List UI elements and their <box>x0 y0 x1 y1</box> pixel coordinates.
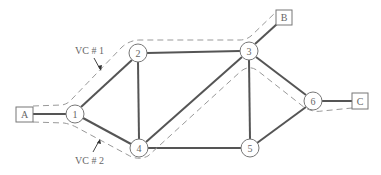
link-1-2 <box>81 60 132 107</box>
router-1-label: 1 <box>73 109 78 120</box>
router-5: 5 <box>241 139 259 157</box>
router-5-label: 5 <box>248 143 253 154</box>
vc1-annotation: VC # 1 <box>75 45 104 71</box>
link-2-3 <box>147 51 240 53</box>
host-C-label: C <box>357 96 364 107</box>
diagram-svg: VC # 1 VC # 2 A B C 1 2 <box>0 0 381 175</box>
link-3-6 <box>256 57 306 95</box>
host-B-label: B <box>281 12 288 23</box>
network-diagram: VC # 1 VC # 2 A B C 1 2 <box>0 0 381 175</box>
router-6-label: 6 <box>311 96 316 107</box>
vc2-annotation: VC # 2 <box>75 139 104 166</box>
link-2-4 <box>138 62 139 139</box>
link-5-6 <box>257 107 306 143</box>
host-C: C <box>352 93 368 109</box>
host-B: B <box>276 10 292 25</box>
host-A: A <box>16 107 33 122</box>
router-2: 2 <box>129 44 147 62</box>
link-3-B <box>255 24 277 44</box>
link-4-3 <box>146 57 242 142</box>
vc2-label: VC # 2 <box>75 155 104 166</box>
router-4-label: 4 <box>137 143 142 154</box>
vc1-label: VC # 1 <box>75 45 104 56</box>
router-3-label: 3 <box>247 46 252 57</box>
host-A-label: A <box>21 109 29 120</box>
link-1-4 <box>83 118 131 144</box>
links <box>33 24 352 148</box>
router-3: 3 <box>240 42 258 60</box>
router-2-label: 2 <box>136 48 141 59</box>
router-4: 4 <box>130 139 148 157</box>
router-6: 6 <box>304 92 322 110</box>
router-1: 1 <box>66 105 84 123</box>
link-3-5 <box>249 60 250 139</box>
